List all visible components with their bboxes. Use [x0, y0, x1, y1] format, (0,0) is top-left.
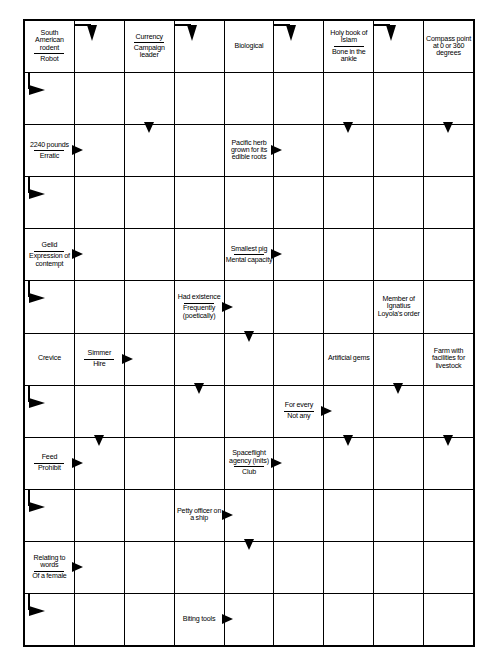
answer-cell[interactable]	[274, 541, 324, 593]
answer-cell[interactable]	[124, 73, 174, 125]
answer-cell[interactable]	[424, 281, 474, 333]
answer-cell[interactable]	[274, 125, 324, 177]
clue-cell: Spaceflight agency (inits)Club	[224, 437, 274, 489]
answer-cell[interactable]	[124, 125, 174, 177]
answer-cell[interactable]	[374, 229, 424, 281]
answer-cell[interactable]	[324, 385, 374, 437]
answer-cell[interactable]	[174, 229, 224, 281]
answer-cell[interactable]	[124, 281, 174, 333]
answer-cell[interactable]	[124, 333, 174, 385]
answer-cell[interactable]	[74, 177, 124, 229]
answer-cell[interactable]	[374, 177, 424, 229]
answer-cell[interactable]	[424, 177, 474, 229]
answer-cell[interactable]	[174, 333, 224, 385]
answer-cell[interactable]	[324, 229, 374, 281]
answer-cell[interactable]	[74, 281, 124, 333]
answer-cell[interactable]	[274, 489, 324, 541]
clue-text: Biological	[226, 43, 273, 50]
answer-cell[interactable]	[324, 125, 374, 177]
answer-cell[interactable]	[374, 333, 424, 385]
answer-cell[interactable]	[124, 541, 174, 593]
clue-text-group: GelidExpression of contempt	[25, 229, 74, 280]
answer-cell[interactable]	[424, 437, 474, 489]
answer-cell[interactable]	[224, 177, 274, 229]
answer-cell[interactable]	[24, 594, 74, 647]
clue-text-group: Pacific herb grown for its edible roots	[225, 125, 274, 176]
answer-cell[interactable]	[224, 281, 274, 333]
answer-cell[interactable]	[74, 594, 124, 647]
answer-cell[interactable]	[24, 177, 74, 229]
answer-cell[interactable]	[174, 125, 224, 177]
answer-cell[interactable]	[24, 281, 74, 333]
answer-cell[interactable]	[124, 437, 174, 489]
answer-cell[interactable]	[324, 437, 374, 489]
answer-cell[interactable]	[174, 541, 224, 593]
answer-cell[interactable]	[274, 229, 324, 281]
answer-cell[interactable]	[74, 229, 124, 281]
answer-cell[interactable]	[424, 125, 474, 177]
clue-text-group: Petty officer on a ship	[175, 490, 224, 541]
answer-cell[interactable]	[24, 385, 74, 437]
answer-cell[interactable]	[174, 73, 224, 125]
answer-cell[interactable]	[174, 177, 224, 229]
answer-cell[interactable]	[24, 489, 74, 541]
answer-cell[interactable]	[274, 20, 324, 73]
crossword-grid: South American rodentRobotCurrencyCampai…	[23, 19, 475, 647]
answer-cell[interactable]	[424, 541, 474, 593]
answer-cell[interactable]	[74, 20, 124, 73]
answer-cell[interactable]	[424, 385, 474, 437]
answer-cell[interactable]	[274, 333, 324, 385]
answer-cell[interactable]	[274, 281, 324, 333]
answer-cell[interactable]	[174, 20, 224, 73]
answer-cell[interactable]	[274, 437, 324, 489]
answer-cell[interactable]	[324, 489, 374, 541]
answer-cell[interactable]	[424, 594, 474, 647]
answer-cell[interactable]	[374, 125, 424, 177]
answer-cell[interactable]	[124, 385, 174, 437]
answer-cell[interactable]	[374, 594, 424, 647]
answer-cell[interactable]	[224, 489, 274, 541]
answer-cell[interactable]	[424, 229, 474, 281]
answer-cell[interactable]	[74, 541, 124, 593]
answer-cell[interactable]	[74, 73, 124, 125]
answer-cell[interactable]	[224, 333, 274, 385]
answer-cell[interactable]	[174, 437, 224, 489]
answer-cell[interactable]	[74, 489, 124, 541]
clue-text: Mental capacity	[226, 257, 273, 264]
answer-cell[interactable]	[324, 541, 374, 593]
answer-cell[interactable]	[324, 281, 374, 333]
answer-cell[interactable]	[324, 594, 374, 647]
answer-cell[interactable]	[374, 73, 424, 125]
answer-cell[interactable]	[224, 385, 274, 437]
answer-cell[interactable]	[224, 594, 274, 647]
answer-cell[interactable]	[174, 385, 224, 437]
clue-cell: Smallest pigMental capacity	[224, 229, 274, 281]
answer-cell[interactable]	[374, 385, 424, 437]
answer-cell[interactable]	[124, 489, 174, 541]
answer-cell[interactable]	[274, 177, 324, 229]
answer-cell[interactable]	[24, 73, 74, 125]
answer-cell[interactable]	[124, 177, 174, 229]
answer-cell[interactable]	[74, 437, 124, 489]
answer-cell[interactable]	[224, 73, 274, 125]
answer-cell[interactable]	[374, 541, 424, 593]
crossword-row: Petty officer on a ship	[24, 489, 474, 541]
clue-text-group: Compass point at 0 or 360 degrees	[424, 21, 473, 72]
answer-cell[interactable]	[124, 594, 174, 647]
answer-cell[interactable]	[424, 489, 474, 541]
answer-cell[interactable]	[224, 541, 274, 593]
clue-text: For every	[275, 402, 322, 409]
answer-cell[interactable]	[74, 125, 124, 177]
answer-cell[interactable]	[274, 73, 324, 125]
answer-cell[interactable]	[324, 73, 374, 125]
answer-cell[interactable]	[374, 20, 424, 73]
answer-cell[interactable]	[274, 594, 324, 647]
answer-cell[interactable]	[424, 73, 474, 125]
answer-cell[interactable]	[74, 385, 124, 437]
clue-text: Spaceflight agency (inits)	[226, 450, 273, 464]
answer-cell[interactable]	[124, 229, 174, 281]
answer-cell[interactable]	[374, 489, 424, 541]
answer-cell[interactable]	[324, 177, 374, 229]
answer-cell[interactable]	[374, 437, 424, 489]
clue-text: Expression of contempt	[26, 253, 73, 267]
